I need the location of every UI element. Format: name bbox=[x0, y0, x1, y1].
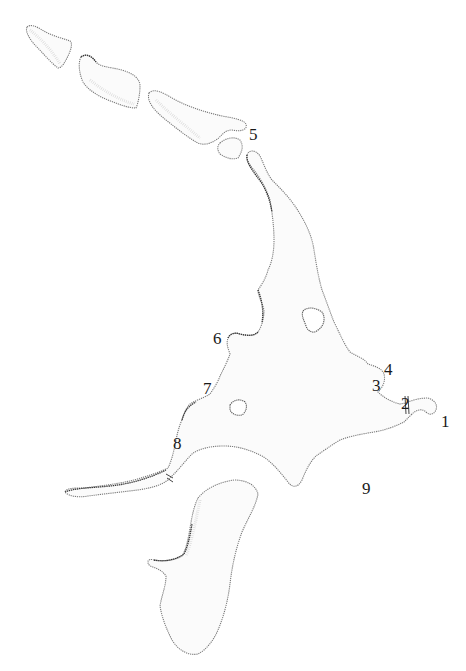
map-label-5: 5 bbox=[249, 126, 258, 143]
islet-nw-3 bbox=[148, 91, 246, 144]
map-label-6: 6 bbox=[213, 330, 222, 347]
map-label-4: 4 bbox=[384, 361, 393, 378]
map-label-1: 1 bbox=[441, 413, 450, 430]
map-label-3: 3 bbox=[372, 377, 381, 394]
map-label-8: 8 bbox=[173, 435, 182, 452]
southern-island bbox=[148, 480, 258, 654]
islet-small-square bbox=[218, 138, 242, 159]
map-label-2: 2 bbox=[401, 395, 410, 412]
main-island bbox=[65, 151, 437, 497]
map-label-7: 7 bbox=[203, 380, 212, 397]
island-map bbox=[0, 0, 466, 671]
islet-nw-2 bbox=[79, 55, 140, 108]
islet-nw-1 bbox=[26, 26, 71, 68]
map-label-9: 9 bbox=[362, 480, 371, 497]
